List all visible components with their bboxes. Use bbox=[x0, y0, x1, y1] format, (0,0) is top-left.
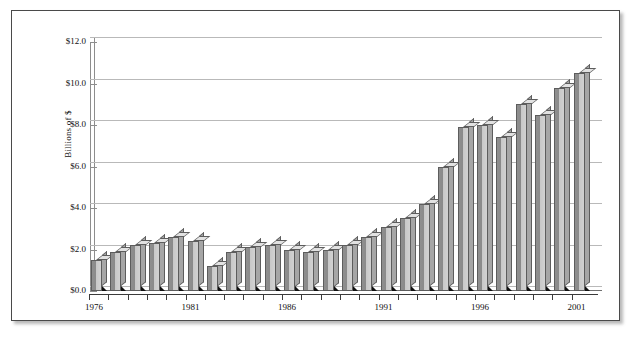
x-axis-tick bbox=[282, 294, 283, 300]
bar-base-shadow bbox=[256, 286, 261, 291]
bar-front-face bbox=[458, 127, 469, 291]
x-axis-tick bbox=[224, 294, 225, 300]
bar-side-face bbox=[527, 95, 532, 286]
chart-screenshot: Billions of $ $0.0$2.0$4.0$6.0$8.0$10.0$… bbox=[0, 0, 635, 344]
x-axis-tick bbox=[417, 294, 418, 300]
bar-side-face bbox=[507, 129, 512, 286]
bar-base-shadow bbox=[527, 286, 532, 291]
y-axis-tick-mark bbox=[90, 208, 97, 209]
bar-front-face bbox=[554, 88, 565, 291]
x-axis-tick-label: 2001 bbox=[568, 302, 586, 312]
x-axis-tick-label: 1996 bbox=[471, 302, 489, 312]
bar-base-shadow bbox=[141, 286, 146, 291]
x-axis-tick bbox=[475, 294, 476, 300]
bar-front-face bbox=[91, 260, 102, 291]
x-axis-tick bbox=[243, 294, 244, 300]
bar-front-face bbox=[381, 227, 392, 291]
y-axis-tick-label: $8.0 bbox=[38, 119, 86, 129]
bar-base-shadow bbox=[276, 286, 281, 291]
bar-top-face bbox=[521, 99, 538, 104]
bar-front-face bbox=[188, 241, 199, 291]
bar-base-shadow bbox=[218, 286, 223, 291]
x-axis-tick bbox=[379, 294, 380, 300]
bar-1989 bbox=[342, 240, 353, 291]
x-axis-tick bbox=[494, 294, 495, 300]
bar-top-face bbox=[193, 236, 210, 241]
x-axis-tick bbox=[128, 294, 129, 300]
bar-front-face bbox=[265, 245, 276, 291]
bar-top-face bbox=[482, 120, 499, 125]
bar-side-face bbox=[546, 106, 551, 286]
bar-front-face bbox=[168, 237, 179, 291]
bar-side-face bbox=[392, 218, 397, 286]
bar-side-face bbox=[565, 79, 570, 286]
bar-base-shadow bbox=[565, 286, 570, 291]
y-axis-tick-label: $4.0 bbox=[38, 202, 86, 212]
x-axis-tick bbox=[398, 294, 399, 300]
y-axis-tick-label: $6.0 bbox=[38, 161, 86, 171]
bar-side-face bbox=[585, 64, 590, 286]
x-axis-tick-label: 1976 bbox=[85, 302, 103, 312]
bar-base-shadow bbox=[585, 286, 590, 291]
bar-front-face bbox=[438, 167, 449, 292]
y-axis-tick-mark bbox=[90, 291, 97, 292]
x-axis-tick-label: 1991 bbox=[375, 302, 393, 312]
bar-base-shadow bbox=[295, 286, 300, 291]
bar-front-face bbox=[342, 245, 353, 291]
bar-side-face bbox=[411, 209, 416, 286]
bar-1982 bbox=[207, 261, 218, 291]
bar-front-face bbox=[207, 266, 218, 291]
y-axis-tick-mark bbox=[90, 125, 97, 126]
bar-front-face bbox=[245, 247, 256, 291]
bar-base-shadow bbox=[546, 286, 551, 291]
bar-1992 bbox=[400, 213, 411, 291]
bar-1998 bbox=[516, 99, 527, 291]
bar-1983 bbox=[226, 247, 237, 291]
x-axis-tick-label: 1981 bbox=[182, 302, 200, 312]
bar-front-face bbox=[574, 73, 585, 291]
bar-base-shadow bbox=[449, 286, 454, 291]
bar-side-face bbox=[430, 195, 435, 286]
x-axis-tick bbox=[301, 294, 302, 300]
bar-1987 bbox=[303, 247, 314, 291]
bar-base-shadow bbox=[469, 286, 474, 291]
x-axis-tick bbox=[572, 294, 573, 300]
bar-1980 bbox=[168, 232, 179, 291]
bar-1986 bbox=[284, 245, 295, 292]
bar-1985 bbox=[265, 240, 276, 291]
bar-front-face bbox=[149, 243, 160, 291]
bar-side-face bbox=[469, 118, 474, 286]
bar-base-shadow bbox=[102, 286, 107, 291]
y-axis-tick-mark bbox=[90, 84, 97, 85]
bar-1988 bbox=[323, 245, 334, 292]
bar-2000 bbox=[554, 83, 565, 291]
bar-1978 bbox=[130, 240, 141, 291]
bar-1997 bbox=[496, 132, 507, 291]
bar-1979 bbox=[149, 238, 160, 291]
bar-1996 bbox=[477, 120, 488, 291]
gridline bbox=[90, 79, 602, 80]
figure-frame: Billions of $ $0.0$2.0$4.0$6.0$8.0$10.0$… bbox=[11, 10, 620, 321]
x-axis-tick bbox=[166, 294, 167, 300]
bar-front-face bbox=[284, 250, 295, 292]
bar-base-shadow bbox=[237, 286, 242, 291]
bar-front-face bbox=[400, 218, 411, 291]
bar-front-face bbox=[303, 252, 314, 291]
bar-base-shadow bbox=[179, 286, 184, 291]
y-axis-tick-label: $0.0 bbox=[38, 285, 86, 295]
bar-front-face bbox=[130, 245, 141, 291]
x-axis-tick bbox=[514, 294, 515, 300]
bar-front-face bbox=[361, 237, 372, 291]
bar-base-shadow bbox=[334, 286, 339, 291]
bar-base-shadow bbox=[199, 286, 204, 291]
bar-1993 bbox=[419, 199, 430, 291]
bar-front-face bbox=[535, 115, 546, 291]
bar-front-face bbox=[419, 204, 430, 291]
x-axis-tick bbox=[147, 294, 148, 300]
x-axis-tick bbox=[205, 294, 206, 300]
x-axis-tick bbox=[340, 294, 341, 300]
bar-1995 bbox=[458, 122, 469, 291]
bar-base-shadow bbox=[411, 286, 416, 291]
x-axis-tick bbox=[436, 294, 437, 300]
bar-front-face bbox=[110, 252, 121, 291]
